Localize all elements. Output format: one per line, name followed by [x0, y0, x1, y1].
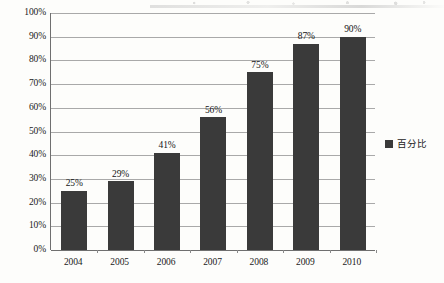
- legend-label-percentage: 百分比: [397, 139, 427, 149]
- y-axis-tick-label: 40%: [2, 150, 46, 160]
- y-axis-tick-label: 0%: [2, 245, 46, 255]
- bar: [108, 181, 134, 250]
- y-axis-tick-label: 100%: [2, 8, 46, 18]
- bar: [61, 191, 87, 250]
- bar-group: 90%: [330, 13, 376, 250]
- y-axis-tick-label: 70%: [2, 79, 46, 89]
- x-axis-tick-mark: [190, 250, 191, 253]
- x-axis-tick-mark: [144, 250, 145, 253]
- bar-value-label: 56%: [205, 106, 222, 116]
- legend-swatch-percentage: [385, 140, 393, 148]
- y-axis-tick-label: 60%: [2, 103, 46, 113]
- axis-baseline: [51, 250, 375, 251]
- x-axis-tick-label: 2007: [189, 258, 235, 268]
- y-axis-tick-label: 50%: [2, 127, 46, 137]
- plot-area: 25%29%41%56%75%87%90%: [50, 13, 375, 250]
- bar-value-label: 87%: [298, 32, 315, 42]
- y-axis-tick-label: 80%: [2, 56, 46, 66]
- bar-value-label: 75%: [251, 61, 268, 71]
- bar-chart-figure: 0%10%20%30%40%50%60%70%80%90%100% 25%29%…: [0, 0, 444, 283]
- x-axis-tick-label: 2008: [236, 258, 282, 268]
- x-axis: 2004200520062007200820092010: [50, 258, 375, 274]
- x-axis-tick-label: 2004: [50, 258, 96, 268]
- y-axis: 0%10%20%30%40%50%60%70%80%90%100%: [0, 13, 46, 250]
- bar-group: 29%: [97, 13, 143, 250]
- bar-group: 87%: [283, 13, 329, 250]
- y-axis-tick-label: 30%: [2, 174, 46, 184]
- bar-group: 75%: [237, 13, 283, 250]
- x-axis-tick-mark: [97, 250, 98, 253]
- x-axis-tick-mark: [237, 250, 238, 253]
- bar-value-label: 29%: [112, 170, 129, 180]
- x-axis-tick-label: 2009: [282, 258, 328, 268]
- x-axis-tick-mark: [330, 250, 331, 253]
- bar-value-label: 25%: [66, 179, 83, 189]
- x-axis-tick-mark: [283, 250, 284, 253]
- y-axis-tick-label: 20%: [2, 198, 46, 208]
- y-axis-tick-label: 10%: [2, 222, 46, 232]
- bar: [340, 37, 366, 250]
- bar-value-label: 41%: [158, 141, 175, 151]
- bar: [247, 72, 273, 250]
- y-axis-tick-label: 90%: [2, 32, 46, 42]
- bar: [154, 153, 180, 250]
- bar-group: 25%: [51, 13, 97, 250]
- bar-group: 56%: [190, 13, 236, 250]
- x-axis-tick-label: 2005: [96, 258, 142, 268]
- bar: [293, 44, 319, 250]
- chart-legend: 百分比: [385, 139, 427, 149]
- x-axis-tick-mark: [376, 250, 377, 253]
- bar-group: 41%: [144, 13, 190, 250]
- x-axis-tick-label: 2006: [143, 258, 189, 268]
- x-axis-tick-label: 2010: [329, 258, 375, 268]
- bar: [200, 117, 226, 250]
- bar-value-label: 90%: [344, 25, 361, 35]
